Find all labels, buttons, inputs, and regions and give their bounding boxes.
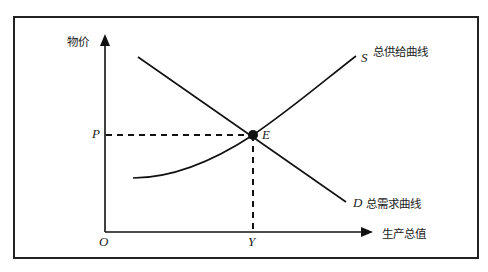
demand-curve xyxy=(138,57,346,202)
demand-letter: D xyxy=(353,195,362,211)
x-axis-label: 生产总值 xyxy=(382,225,426,241)
origin-label: O xyxy=(99,234,108,250)
y-axis-label: 物价 xyxy=(67,33,89,49)
equilibrium-label: E xyxy=(262,127,270,143)
supply-letter: S xyxy=(361,50,368,66)
price-label: P xyxy=(92,126,100,142)
supply-curve-label: 总供给曲线 xyxy=(373,43,428,59)
equilibrium-point xyxy=(248,130,258,140)
supply-curve xyxy=(133,56,356,178)
demand-curve-label: 总需求曲线 xyxy=(366,195,421,211)
output-label: Y xyxy=(248,234,255,250)
x-axis-arrow-icon xyxy=(361,227,373,237)
y-axis-arrow-icon xyxy=(100,34,110,46)
